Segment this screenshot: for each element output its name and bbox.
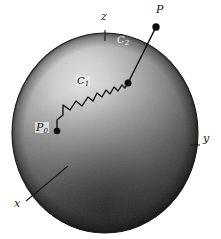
start-point-label-sub: 0 (43, 127, 47, 135)
end-point-dot (152, 23, 159, 30)
exit-ray-label-sub: 2 (125, 39, 129, 47)
diagram-canvas (0, 0, 221, 239)
exit-ray-label: C2 (116, 35, 130, 45)
end-point-label: P (156, 4, 163, 15)
random-walk-label: C1 (76, 76, 90, 86)
surface-exit-point-dot (125, 80, 132, 87)
start-point-dot (54, 128, 61, 135)
y-axis-label: y (203, 133, 209, 144)
x-axis-label: x (14, 198, 20, 209)
sphere-diagram: z y x P P0 C1 C2 (0, 0, 221, 239)
sphere-body (10, 31, 202, 237)
exit-ray-label-text: C (117, 34, 125, 45)
z-axis-label: z (101, 11, 107, 22)
random-walk-label-text: C (77, 75, 85, 86)
start-point-label: P0 (35, 122, 49, 133)
random-walk-label-sub: 1 (85, 80, 89, 88)
